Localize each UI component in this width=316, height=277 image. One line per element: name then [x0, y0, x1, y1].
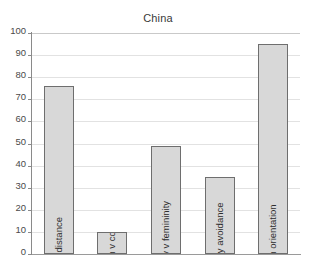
bar-label: Long-term orientation — [264, 204, 274, 254]
bar-label-text: Masculinity v femininity — [161, 200, 171, 254]
bar-label: Individualism v collectivism — [103, 232, 113, 254]
bar[interactable]: Individualism v collectivism — [97, 232, 127, 254]
bar-label: Uncertainty avoidance — [210, 202, 220, 254]
bar-label: Power distance — [49, 217, 59, 254]
y-axis-tick-label: 60 — [15, 114, 26, 124]
bar[interactable]: Uncertainty avoidance — [205, 177, 235, 254]
y-axis: 0102030405060708090100 — [0, 33, 32, 254]
bar-label-text: Power distance — [54, 217, 64, 254]
y-axis-tick-label: 70 — [15, 92, 26, 102]
y-axis-tick-mark — [28, 254, 32, 255]
bar-label: Masculinity v femininity — [157, 200, 167, 254]
bar-label-text: Uncertainty avoidance — [215, 202, 225, 254]
bars-layer: Power distanceIndividualism v collectivi… — [32, 33, 300, 254]
bar-chart-figure: China 0102030405060708090100 Power dista… — [0, 0, 316, 277]
y-axis-tick-label: 100 — [10, 26, 26, 36]
y-axis-tick-label: 80 — [15, 70, 26, 80]
x-axis-line — [31, 254, 301, 255]
bar-label-text: Long-term orientation — [268, 204, 278, 254]
y-axis-tick-label: 50 — [15, 137, 26, 147]
y-axis-tick-label: 10 — [15, 225, 26, 235]
bar[interactable]: Power distance — [44, 86, 74, 254]
bar[interactable]: Long-term orientation — [258, 44, 288, 254]
chart-title: China — [0, 12, 316, 24]
bar-label-text: Individualism v collectivism — [108, 232, 118, 254]
y-axis-tick-label: 90 — [15, 48, 26, 58]
y-axis-tick-label: 20 — [15, 203, 26, 213]
y-axis-tick-label: 0 — [21, 247, 26, 257]
y-axis-tick-label: 30 — [15, 181, 26, 191]
plot-area: Power distanceIndividualism v collectivi… — [32, 33, 300, 254]
y-axis-tick-label: 40 — [15, 159, 26, 169]
bar[interactable]: Masculinity v femininity — [151, 146, 181, 254]
